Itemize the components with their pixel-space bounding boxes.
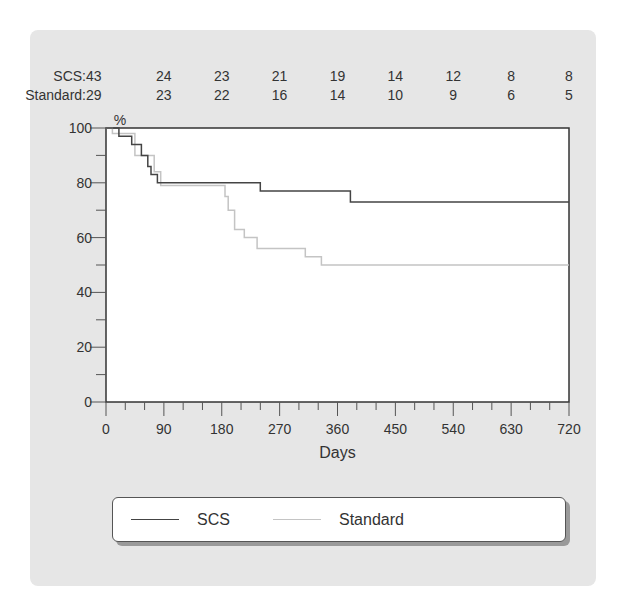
- legend-line-scs: [131, 519, 179, 520]
- risk-row-label: Standard:: [25, 87, 86, 103]
- risk-count: 19: [330, 68, 346, 84]
- legend-line-standard: [273, 519, 321, 520]
- x-tick-label: 90: [156, 421, 172, 437]
- risk-count: 12: [445, 68, 461, 84]
- risk-count: 8: [565, 68, 573, 84]
- x-tick-label: 270: [268, 421, 292, 437]
- risk-count: 21: [272, 68, 288, 84]
- legend-item-scs: SCS: [131, 498, 230, 541]
- risk-count: 24: [156, 68, 172, 84]
- x-tick-label: 450: [384, 421, 408, 437]
- legend: SCS Standard: [112, 497, 566, 542]
- legend-label-scs: SCS: [197, 511, 230, 529]
- legend-item-standard: Standard: [273, 498, 404, 541]
- y-tick-label: 60: [76, 230, 92, 246]
- y-tick-label: 20: [76, 339, 92, 355]
- y-tick-label: 80: [76, 175, 92, 191]
- risk-count: 22: [214, 87, 230, 103]
- risk-count: 8: [507, 68, 515, 84]
- risk-count: 9: [449, 87, 457, 103]
- y-tick-label: 0: [84, 394, 92, 410]
- y-tick-label: 40: [76, 284, 92, 300]
- risk-count: 5: [565, 87, 573, 103]
- x-axis-label: Days: [319, 444, 355, 461]
- risk-count: 10: [388, 87, 404, 103]
- risk-count: 16: [272, 87, 288, 103]
- y-tick-label: 100: [69, 120, 93, 136]
- x-tick-label: 360: [326, 421, 350, 437]
- risk-count: 14: [330, 87, 346, 103]
- risk-count: 43: [86, 68, 102, 84]
- x-tick-label: 630: [499, 421, 523, 437]
- x-tick-label: 540: [442, 421, 466, 437]
- legend-label-standard: Standard: [339, 511, 404, 529]
- x-tick-label: 0: [102, 421, 110, 437]
- x-tick-label: 720: [557, 421, 581, 437]
- x-tick-label: 180: [210, 421, 234, 437]
- risk-count: 23: [156, 87, 172, 103]
- risk-count: 23: [214, 68, 230, 84]
- risk-row-label: SCS:: [53, 68, 86, 84]
- risk-count: 6: [507, 87, 515, 103]
- y-axis-label: %: [114, 112, 126, 128]
- risk-count: 14: [388, 68, 404, 84]
- risk-count: 29: [86, 87, 102, 103]
